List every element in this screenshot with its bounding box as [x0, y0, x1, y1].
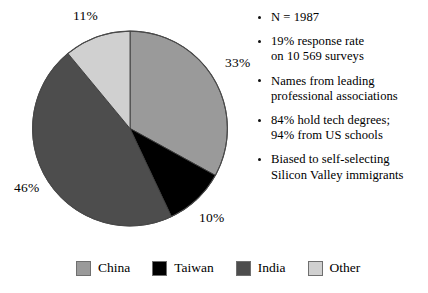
annotation-item: Biased to self-selectingSilicon Valley i… [258, 152, 426, 182]
legend-label: Other [330, 261, 361, 275]
annotation-item: 19% response rateon 10 569 surveys [258, 34, 426, 64]
bullet-dot-icon [258, 119, 261, 122]
legend-item-other[interactable]: Other [308, 261, 361, 276]
legend-swatch-icon [236, 261, 251, 276]
annotation-line: Biased to self-selecting [271, 152, 426, 167]
legend-item-india[interactable]: India [236, 261, 286, 276]
slice-label-other: 11% [73, 9, 98, 23]
legend-label: Taiwan [174, 261, 214, 275]
legend-item-china[interactable]: China [76, 261, 130, 276]
chart-legend: ChinaTaiwanIndiaOther [76, 258, 360, 278]
slice-label-china: 33% [225, 56, 250, 70]
annotation-line: 19% response rate [271, 34, 426, 49]
annotation-list: N = 198719% response rateon 10 569 surve… [258, 10, 426, 183]
annotation-item: N = 1987 [258, 10, 426, 25]
annotation-item: Names from leadingprofessional associati… [258, 74, 426, 104]
bullet-dot-icon [258, 158, 261, 161]
legend-swatch-icon [308, 261, 323, 276]
bullet-dot-icon [258, 40, 261, 43]
annotation-line: Names from leading [271, 74, 426, 89]
pie-chart-figure: 11% 33% 46% 10% N = 198719% response rat… [0, 0, 428, 293]
annotation-line: professional associations [271, 89, 426, 104]
annotation-line: N = 1987 [271, 10, 426, 25]
legend-swatch-icon [76, 261, 91, 276]
legend-label: India [258, 261, 286, 275]
annotation-line: 84% hold tech degrees; [271, 113, 426, 128]
legend-swatch-icon [152, 261, 167, 276]
annotation-item: 84% hold tech degrees;94% from US school… [258, 113, 426, 143]
slice-label-taiwan: 10% [199, 211, 224, 225]
annotation-line: on 10 569 surveys [271, 49, 426, 64]
pie-svg [32, 30, 228, 227]
bullet-dot-icon [258, 16, 261, 19]
annotation-line: Silicon Valley immigrants [271, 168, 426, 183]
annotation-line: 94% from US schools [271, 128, 426, 143]
bullet-dot-icon [258, 79, 261, 82]
pie-chart-graphic [32, 30, 228, 227]
slice-label-india: 46% [14, 181, 39, 195]
legend-item-taiwan[interactable]: Taiwan [152, 261, 214, 276]
legend-label: China [98, 261, 130, 275]
